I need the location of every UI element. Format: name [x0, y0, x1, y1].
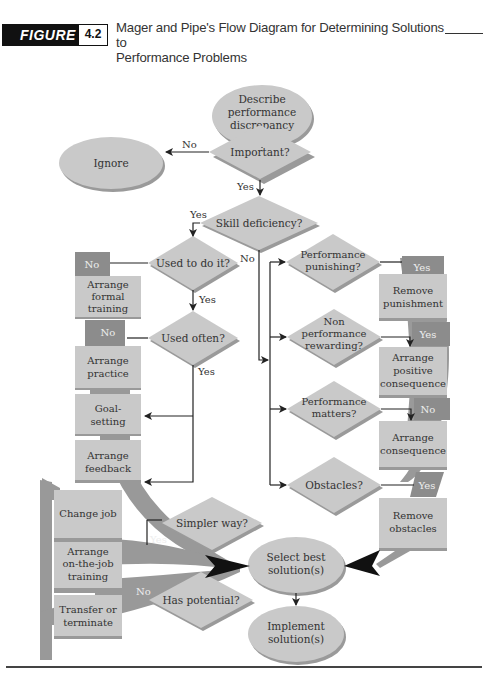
- solution-goal-setting: Goal- setting: [75, 394, 141, 436]
- start-line2: performance: [228, 106, 296, 118]
- solution-change-job: Change job: [54, 490, 122, 538]
- flow-diagram: Describe performance discrepancy Ignore …: [0, 0, 484, 685]
- implement-line1: Implement: [267, 620, 325, 632]
- solution-remove-punishment: Yes Remove punishment: [379, 256, 447, 321]
- svg-text:Goal-: Goal-: [95, 403, 122, 414]
- start-line1: Describe: [238, 93, 285, 105]
- svg-text:consequence: consequence: [380, 445, 446, 456]
- svg-text:Yes: Yes: [419, 329, 437, 340]
- svg-text:Transfer or: Transfer or: [59, 604, 117, 615]
- big-arrow-right-icon: [344, 550, 380, 576]
- node-perf-punishing: Performance punishing?: [286, 234, 382, 293]
- svg-text:setting: setting: [90, 416, 126, 427]
- svg-text:Arrange: Arrange: [86, 279, 129, 290]
- svg-text:Arrange: Arrange: [86, 355, 129, 366]
- label-simpler-yes: Yes: [149, 534, 167, 545]
- solution-on-the-job-training: Arrange on-the-job training: [54, 542, 122, 588]
- select-best-line1: Select best: [267, 551, 327, 563]
- node-used-often: Used often?: [148, 311, 240, 368]
- svg-text:performance: performance: [301, 328, 366, 339]
- svg-text:Obstacles?: Obstacles?: [305, 479, 363, 491]
- svg-text:Arrange: Arrange: [391, 432, 434, 443]
- svg-text:Used often?: Used often?: [161, 332, 225, 344]
- svg-text:on-the-job: on-the-job: [62, 558, 113, 569]
- solution-remove-obstacles: Yes Remove obstacles: [376, 472, 447, 568]
- svg-text:No: No: [85, 259, 100, 270]
- svg-text:practice: practice: [87, 368, 129, 379]
- svg-text:feedback: feedback: [85, 463, 132, 474]
- svg-text:punishing?: punishing?: [305, 261, 360, 272]
- svg-text:Yes: Yes: [418, 480, 436, 491]
- svg-text:Skill deficiency?: Skill deficiency?: [216, 217, 303, 229]
- svg-text:Yes: Yes: [413, 262, 431, 273]
- node-skill-deficiency: Skill deficiency?: [200, 196, 320, 253]
- label-important-no: No: [182, 139, 197, 150]
- solution-practice: No Arrange practice: [75, 320, 141, 390]
- label-skill-no: No: [240, 253, 255, 264]
- svg-text:formal: formal: [91, 291, 124, 302]
- label-important-yes: Yes: [236, 181, 254, 192]
- svg-text:consequence: consequence: [380, 378, 446, 389]
- svg-text:matters?: matters?: [312, 408, 357, 419]
- svg-text:Used to do it?: Used to do it?: [156, 257, 230, 269]
- solution-formal-training: No Arrange formal training: [75, 252, 141, 319]
- label-potential-no: No: [136, 586, 151, 597]
- ignore-label: Ignore: [93, 157, 128, 169]
- svg-text:positive: positive: [393, 365, 433, 376]
- svg-text:obstacles: obstacles: [389, 523, 436, 534]
- node-perf-matters: Performance matters?: [287, 381, 383, 440]
- select-best-line2: solution(s): [268, 564, 324, 576]
- svg-text:Arrange: Arrange: [86, 450, 129, 461]
- svg-text:Remove: Remove: [393, 510, 434, 521]
- svg-text:Remove: Remove: [393, 285, 434, 296]
- solution-transfer-terminate: Transfer or terminate: [54, 595, 122, 639]
- svg-text:Simpler way?: Simpler way?: [176, 517, 248, 529]
- svg-text:No: No: [421, 404, 436, 415]
- svg-text:terminate: terminate: [63, 617, 113, 628]
- node-select-best: Select best solution(s): [248, 537, 346, 596]
- svg-text:Non: Non: [323, 316, 345, 327]
- node-used-to-do-it: Used to do it?: [148, 236, 240, 293]
- svg-text:Important?: Important?: [230, 146, 290, 158]
- node-obstacles: Obstacles?: [287, 457, 383, 516]
- node-ignore: Ignore: [59, 137, 165, 192]
- svg-text:Has potential?: Has potential?: [162, 594, 240, 606]
- implement-line2: solution(s): [268, 633, 324, 645]
- svg-text:Arrange: Arrange: [391, 352, 434, 363]
- svg-text:Performance: Performance: [302, 396, 367, 407]
- svg-text:Change job: Change job: [59, 508, 117, 519]
- svg-text:Performance: Performance: [301, 249, 366, 260]
- svg-text:training: training: [68, 571, 109, 582]
- node-implement: Implement solution(s): [248, 606, 346, 665]
- svg-text:Arrange: Arrange: [66, 546, 109, 557]
- node-non-perf-rewarding: Non performance rewarding?: [287, 309, 383, 368]
- svg-text:punishment: punishment: [383, 298, 443, 309]
- bottom-rule: [6, 666, 482, 668]
- label-skill-yes: Yes: [189, 209, 207, 220]
- label-used-to-do-yes: Yes: [198, 294, 216, 305]
- svg-text:training: training: [88, 303, 129, 314]
- svg-text:No: No: [101, 327, 116, 338]
- svg-text:rewarding?: rewarding?: [305, 340, 363, 351]
- label-used-often-yes: Yes: [197, 366, 215, 377]
- solution-feedback: Arrange feedback: [75, 440, 141, 483]
- solution-positive-consequence: Yes Arrange positive consequence: [379, 322, 450, 398]
